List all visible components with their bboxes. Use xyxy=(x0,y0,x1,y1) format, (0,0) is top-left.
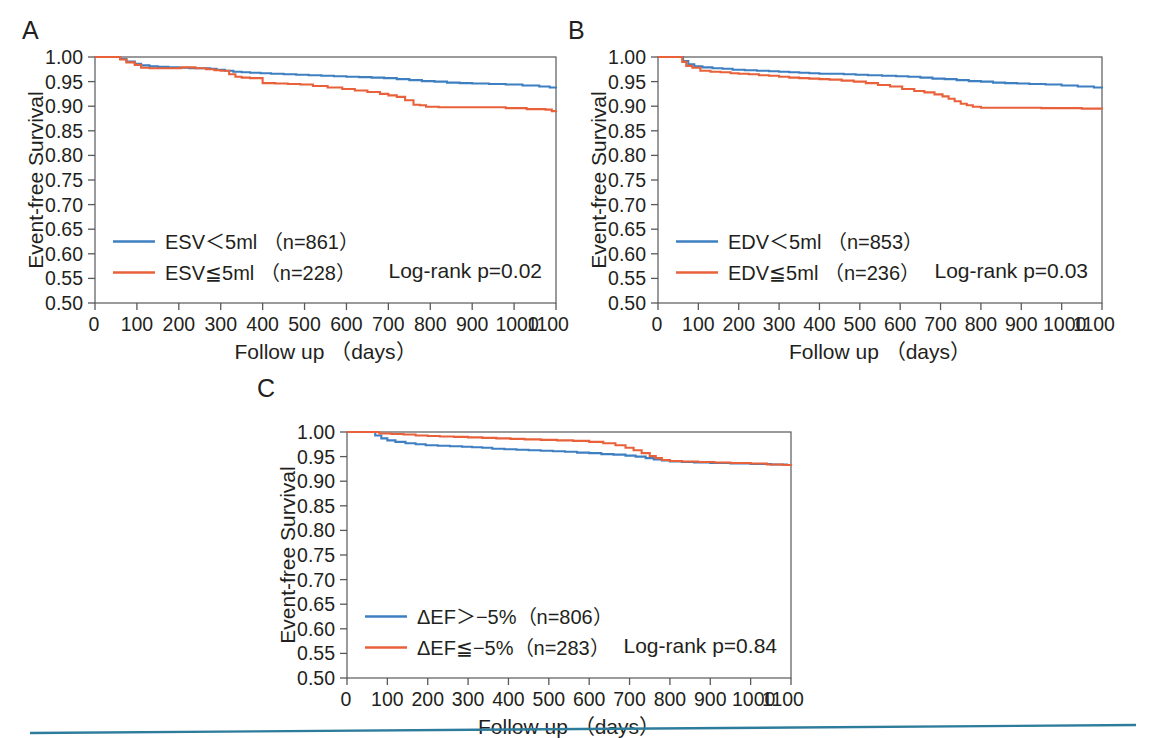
svg-text:0.70: 0.70 xyxy=(297,569,335,591)
svg-text:Event-free Survival: Event-free Survival xyxy=(24,91,47,268)
svg-text:0.85: 0.85 xyxy=(297,495,335,517)
panel-b-plot: 0.500.550.600.650.700.750.800.850.900.95… xyxy=(546,0,1150,370)
svg-text:0.95: 0.95 xyxy=(45,71,83,93)
svg-text:0.80: 0.80 xyxy=(297,519,335,541)
svg-text:ΔEF＞−5%（n=806）: ΔEF＞−5%（n=806） xyxy=(417,606,613,628)
svg-text:Follow up （days）: Follow up （days） xyxy=(234,340,416,363)
svg-text:Log-rank p=0.02: Log-rank p=0.02 xyxy=(388,259,542,282)
svg-text:0.75: 0.75 xyxy=(45,169,83,191)
svg-text:800: 800 xyxy=(965,313,998,335)
svg-text:1.00: 1.00 xyxy=(297,421,335,443)
panel-c: C 0.500.550.600.650.700.750.800.850.900.… xyxy=(235,372,839,720)
svg-text:500: 500 xyxy=(844,313,877,335)
bottom-divider-rule xyxy=(0,705,1150,738)
svg-text:0.85: 0.85 xyxy=(45,120,83,142)
svg-text:600: 600 xyxy=(330,313,363,335)
svg-text:0.50: 0.50 xyxy=(297,667,335,689)
svg-text:Event-free Survival: Event-free Survival xyxy=(276,466,299,643)
svg-text:0.65: 0.65 xyxy=(608,218,646,240)
svg-text:ESV＜5ml （n=861）: ESV＜5ml （n=861） xyxy=(165,231,359,253)
svg-text:0.65: 0.65 xyxy=(45,218,83,240)
svg-text:900: 900 xyxy=(1005,313,1038,335)
panel-b: B 0.500.550.600.650.700.750.800.850.900.… xyxy=(546,0,1150,370)
svg-text:0.65: 0.65 xyxy=(297,593,335,615)
svg-text:0.90: 0.90 xyxy=(297,470,335,492)
svg-text:EDV≦5ml （n=236）: EDV≦5ml （n=236） xyxy=(728,262,920,284)
svg-text:100: 100 xyxy=(682,313,715,335)
svg-text:900: 900 xyxy=(456,313,489,335)
svg-text:0.70: 0.70 xyxy=(608,194,646,216)
svg-text:400: 400 xyxy=(803,313,836,335)
svg-text:700: 700 xyxy=(372,313,405,335)
svg-text:0.50: 0.50 xyxy=(608,292,646,314)
svg-text:0.90: 0.90 xyxy=(608,95,646,117)
svg-text:ESV≦5ml （n=228）: ESV≦5ml （n=228） xyxy=(165,262,356,284)
svg-text:1.00: 1.00 xyxy=(45,46,83,68)
svg-text:0.90: 0.90 xyxy=(45,95,83,117)
svg-text:400: 400 xyxy=(246,313,279,335)
svg-text:1100: 1100 xyxy=(1073,313,1115,335)
svg-text:0.60: 0.60 xyxy=(297,618,335,640)
panel-a: A 0.500.550.600.650.700.750.800.850.900.… xyxy=(0,0,575,370)
svg-text:ΔEF≦−5%（n=283）: ΔEF≦−5%（n=283） xyxy=(417,637,610,659)
svg-text:0.95: 0.95 xyxy=(297,446,335,468)
svg-text:0.60: 0.60 xyxy=(608,243,646,265)
svg-text:0.50: 0.50 xyxy=(45,292,83,314)
svg-text:0: 0 xyxy=(89,313,100,335)
svg-text:700: 700 xyxy=(924,313,957,335)
svg-text:1.00: 1.00 xyxy=(608,46,646,68)
svg-text:Log-rank p=0.84: Log-rank p=0.84 xyxy=(623,634,777,657)
svg-text:0.80: 0.80 xyxy=(608,144,646,166)
svg-text:0.85: 0.85 xyxy=(608,120,646,142)
svg-text:Log-rank p=0.03: Log-rank p=0.03 xyxy=(934,259,1088,282)
svg-text:300: 300 xyxy=(204,313,237,335)
svg-text:0.75: 0.75 xyxy=(608,169,646,191)
svg-text:0.55: 0.55 xyxy=(297,642,335,664)
svg-text:0.60: 0.60 xyxy=(45,243,83,265)
svg-text:0.80: 0.80 xyxy=(45,144,83,166)
svg-text:0.95: 0.95 xyxy=(608,71,646,93)
svg-text:0.55: 0.55 xyxy=(608,267,646,289)
figure-root: A 0.500.550.600.650.700.750.800.850.900.… xyxy=(0,0,1150,738)
svg-text:200: 200 xyxy=(722,313,755,335)
panel-a-plot: 0.500.550.600.650.700.750.800.850.900.95… xyxy=(0,0,575,370)
svg-text:Event-free Survival: Event-free Survival xyxy=(587,91,610,268)
svg-text:300: 300 xyxy=(763,313,796,335)
svg-text:0.55: 0.55 xyxy=(45,267,83,289)
svg-text:0.70: 0.70 xyxy=(45,194,83,216)
svg-text:600: 600 xyxy=(884,313,917,335)
svg-text:200: 200 xyxy=(163,313,196,335)
svg-text:EDV＜5ml （n=853）: EDV＜5ml （n=853） xyxy=(728,231,923,253)
svg-text:500: 500 xyxy=(288,313,321,335)
svg-text:100: 100 xyxy=(121,313,154,335)
svg-text:800: 800 xyxy=(414,313,447,335)
svg-text:Follow up （days）: Follow up （days） xyxy=(789,340,971,363)
svg-text:0: 0 xyxy=(652,313,663,335)
svg-text:0.75: 0.75 xyxy=(297,544,335,566)
panel-c-plot: 0.500.550.600.650.700.750.800.850.900.95… xyxy=(235,372,839,720)
